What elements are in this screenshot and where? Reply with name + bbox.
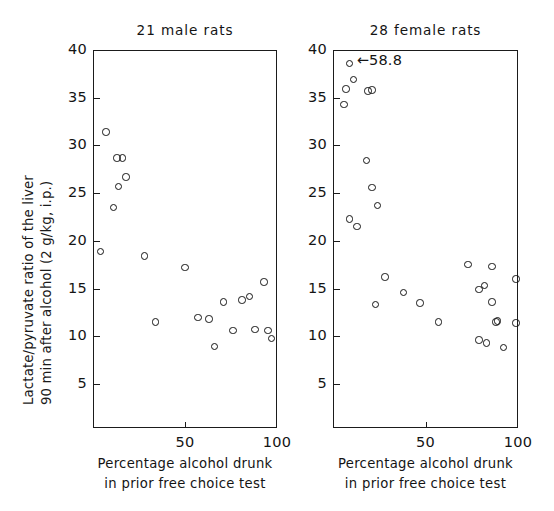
data-point [340, 101, 347, 108]
data-point [368, 184, 375, 191]
y-tick-label-male-20: 20 [57, 232, 87, 248]
data-point [416, 299, 423, 306]
y-tick-female-35 [333, 98, 340, 99]
x-tick-label-female-50: 50 [406, 434, 446, 450]
data-point [488, 298, 495, 305]
y-tick-female-10 [333, 336, 340, 337]
data-point [205, 315, 212, 322]
y-tick-label-female-5: 5 [297, 375, 327, 391]
data-point [494, 317, 501, 324]
y-tick-male-20 [93, 241, 100, 242]
data-point [119, 154, 126, 161]
offscale-value-annotation: ←58.8 [357, 52, 402, 68]
data-point [181, 264, 188, 271]
y-tick-male-30 [93, 145, 100, 146]
y-tick-label-male-15: 15 [57, 280, 87, 296]
data-point [122, 173, 129, 180]
data-point [102, 128, 109, 135]
data-point [435, 318, 442, 325]
data-point [141, 252, 148, 259]
y-tick-female-5 [333, 384, 340, 385]
x-axis-caption-female-line2: in prior free choice test [240, 476, 554, 491]
figure-root: Lactate/pyruvate ratio of the liver 90 m… [0, 0, 554, 511]
y-tick-male-35 [93, 98, 100, 99]
x-tick-female-50 [426, 422, 427, 428]
x-tick-male-50 [185, 422, 186, 428]
data-point [220, 298, 227, 305]
y-tick-label-male-35: 35 [57, 89, 87, 105]
y-tick-label-female-15: 15 [297, 280, 327, 296]
x-tick-label-female-100: 100 [498, 434, 538, 450]
y-tick-label-female-30: 30 [297, 136, 327, 152]
y-tick-male-15 [93, 289, 100, 290]
data-point [342, 85, 349, 92]
data-point [488, 263, 495, 270]
data-point [512, 275, 519, 282]
x-tick-label-male-50: 50 [165, 434, 205, 450]
y-tick-label-female-40: 40 [297, 41, 327, 57]
y-tick-label-female-25: 25 [297, 184, 327, 200]
panel-female-title: 28 female rats [240, 22, 554, 38]
data-point [353, 223, 360, 230]
data-point [381, 273, 388, 280]
y-tick-female-15 [333, 289, 340, 290]
y-tick-label-male-40: 40 [57, 41, 87, 57]
y-tick-label-female-10: 10 [297, 327, 327, 343]
data-point [368, 86, 375, 93]
y-tick-female-40 [333, 50, 340, 51]
data-point [346, 215, 353, 222]
data-point [194, 314, 201, 321]
y-tick-label-male-5: 5 [57, 375, 87, 391]
y-tick-label-female-20: 20 [297, 232, 327, 248]
y-tick-label-female-35: 35 [297, 89, 327, 105]
data-point [97, 248, 104, 255]
data-point [400, 289, 407, 296]
y-tick-male-40 [93, 50, 100, 51]
y-tick-female-20 [333, 241, 340, 242]
data-point [512, 319, 519, 326]
plot-frame-female [333, 50, 518, 428]
y-tick-label-male-25: 25 [57, 184, 87, 200]
y-tick-male-5 [93, 384, 100, 385]
y-tick-female-25 [333, 193, 340, 194]
data-point [229, 327, 236, 334]
data-point [475, 336, 482, 343]
data-point [483, 339, 490, 346]
y-tick-label-male-30: 30 [57, 136, 87, 152]
y-tick-male-25 [93, 193, 100, 194]
x-axis-caption-female-line1: Percentage alcohol drunk [240, 456, 554, 471]
data-point [110, 204, 117, 211]
data-point [152, 318, 159, 325]
y-tick-label-male-10: 10 [57, 327, 87, 343]
y-tick-male-10 [93, 336, 100, 337]
y-tick-female-30 [333, 145, 340, 146]
panel-female-rats: 28 female rats 510152025303540 50100 ←58… [240, 0, 554, 511]
